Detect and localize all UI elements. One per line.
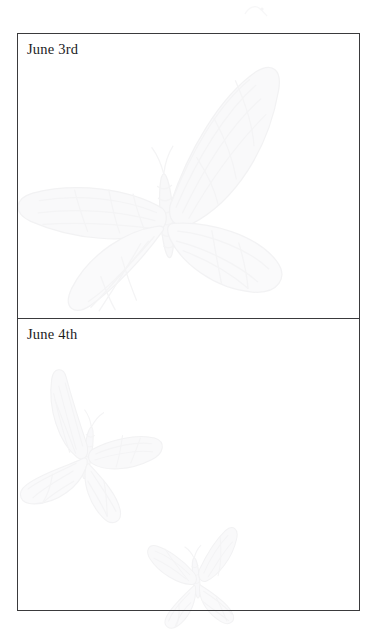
entry-label-june-4th: June 4th (27, 326, 77, 343)
ink-speck-mark (243, 3, 269, 15)
journal-entry-panel-june-4th[interactable]: June 4th (18, 319, 359, 609)
journal-page: June 3rd June 4th (0, 0, 377, 636)
journal-entry-panel-june-3rd[interactable]: June 3rd (18, 34, 359, 319)
entry-body-june-4th[interactable] (27, 349, 350, 603)
journal-frame: June 3rd June 4th (17, 33, 360, 611)
entry-label-june-3rd: June 3rd (27, 41, 78, 58)
entry-body-june-3rd[interactable] (27, 64, 350, 312)
